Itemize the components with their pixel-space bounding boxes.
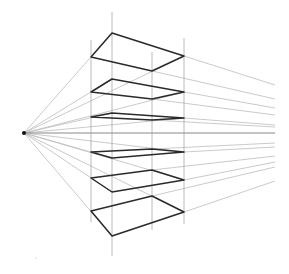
perspective-diagram (0, 0, 289, 274)
background (0, 0, 289, 274)
vanishing-point (22, 131, 26, 135)
stray-pencil-mark (35, 257, 37, 259)
